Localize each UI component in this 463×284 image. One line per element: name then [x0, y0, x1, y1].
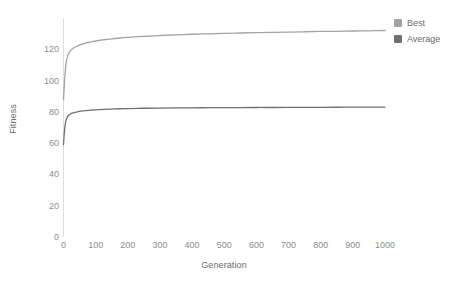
legend-swatch-icon: [394, 19, 402, 27]
x-tick-label: 1000: [365, 240, 405, 250]
chart-legend: BestAverage: [394, 17, 440, 44]
legend-swatch-icon: [394, 35, 402, 43]
legend-label: Average: [407, 34, 440, 44]
legend-item[interactable]: Best: [394, 17, 440, 28]
x-axis-title: Generation: [63, 260, 385, 270]
legend-label: Best: [407, 18, 425, 28]
y-axis-title: Fitness: [8, 89, 18, 149]
fitness-vs-generation-chart: 020406080100120 010020030040050060070080…: [0, 0, 463, 284]
legend-item[interactable]: Average: [394, 33, 440, 44]
